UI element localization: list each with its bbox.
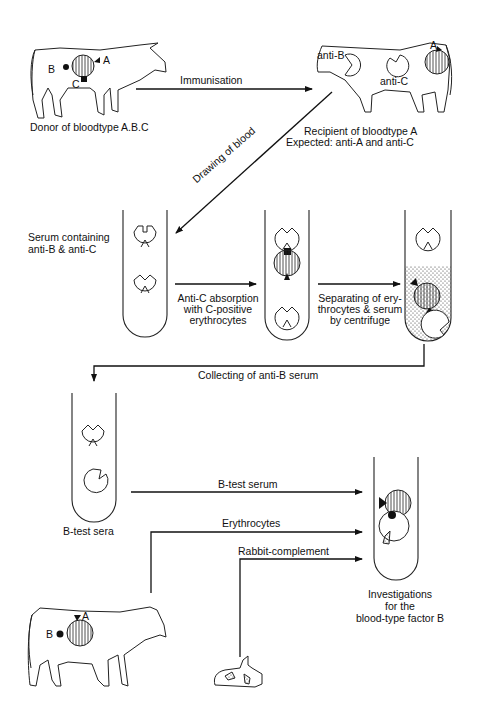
antigen-b-icon — [57, 631, 64, 638]
collecting-label: Collecting of anti-B serum — [198, 369, 318, 381]
complement-icon — [225, 672, 235, 680]
absorption-label-3: erythrocytes — [170, 314, 266, 326]
erythrocytes-arrow — [151, 532, 362, 593]
antigen-c-label: C — [72, 78, 80, 90]
investigation-label-2: for the — [330, 600, 470, 612]
serum-label-2: anti-B & anti-C — [28, 243, 96, 255]
anti-b-antibody — [84, 469, 108, 493]
erythrocyte-icon — [274, 250, 300, 276]
erythrocytes-label: Erythrocytes — [222, 517, 280, 529]
complement-icon — [244, 674, 250, 684]
anti-c-label: anti-C — [380, 75, 408, 87]
antibody-icon — [275, 228, 299, 251]
erythrocyte-icon — [414, 283, 440, 309]
anti-c-antibody — [387, 55, 409, 77]
antigen-c-icon — [81, 76, 87, 82]
serum-label-1: Serum containing — [28, 231, 110, 243]
separating-label-3: by centrifuge — [312, 314, 408, 326]
btest-serum-label: B-test serum — [218, 478, 278, 490]
source-cow — [28, 607, 166, 686]
antigen-b-icon — [388, 511, 396, 519]
antibody-icon — [134, 275, 156, 293]
antigen-a-label: A — [430, 39, 437, 51]
antigen-b-label: B — [46, 628, 53, 640]
tube-serum — [123, 210, 167, 337]
expected-label: Expected: anti-A and anti-C — [286, 136, 414, 148]
antibody-icon — [134, 226, 156, 247]
recipient-erythrocyte — [425, 50, 449, 74]
donor-cow — [31, 43, 166, 118]
antigen-a-label: A — [103, 54, 110, 66]
antibody-icon — [82, 425, 104, 446]
antigen-b-label: B — [48, 63, 55, 75]
complement-label: Rabbit-complement — [238, 545, 329, 557]
anti-b-label: anti-B — [317, 49, 344, 61]
immunisation-label: Immunisation — [180, 74, 242, 86]
antigen-a-icon — [94, 57, 100, 63]
antigen-a-label: A — [82, 610, 89, 622]
rabbit — [214, 656, 262, 687]
btest-sera-label: B-test sera — [63, 525, 114, 537]
anti-b-antibody — [345, 54, 361, 76]
antibody-icon — [416, 228, 440, 251]
donor-erythrocyte — [72, 55, 94, 77]
investigation-label-1: Investigations — [330, 588, 470, 600]
investigation-label-3: blood-type factor B — [330, 612, 470, 624]
tube-btest — [72, 393, 116, 522]
antibody-icon — [275, 307, 299, 330]
donor-label: Donor of bloodtype A.B.C — [30, 121, 149, 133]
antigen-b-icon — [63, 64, 69, 70]
source-erythrocyte — [67, 620, 93, 646]
